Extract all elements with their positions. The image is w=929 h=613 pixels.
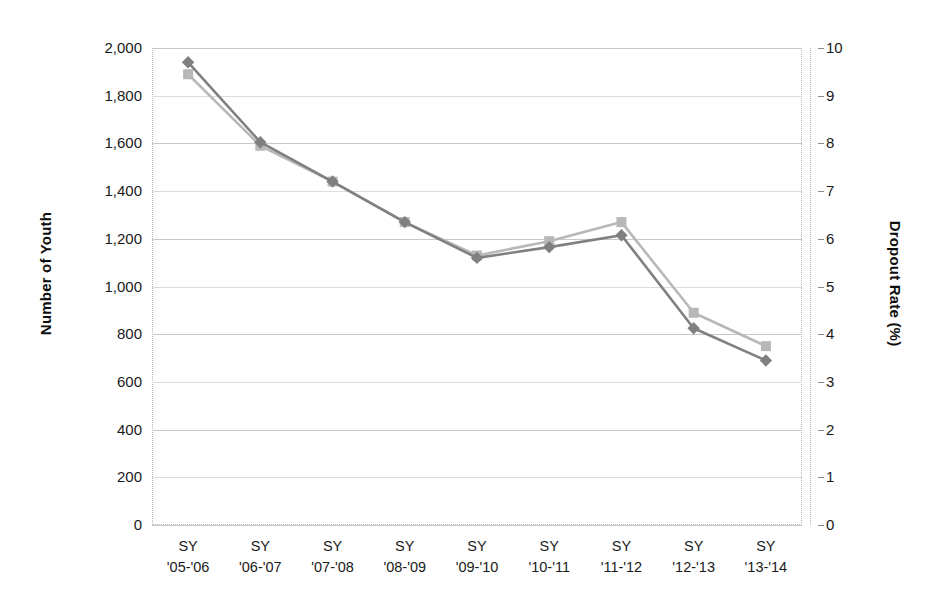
y-axis-right-tick-label: 2: [826, 422, 866, 437]
series-line: [188, 62, 766, 360]
y-axis-left-tick-label: 1,000: [72, 279, 142, 294]
y-axis-right-line: [810, 48, 812, 525]
y-axis-left-tick-label: 1,200: [72, 231, 142, 246]
plot-area: [152, 48, 802, 525]
x-axis-tick-label-line: SY: [585, 536, 657, 557]
y-axis-right-tick-mark: [818, 239, 824, 240]
y-axis-left-tick-label: 0: [72, 517, 142, 532]
x-axis-labels: SY'05-'06SY'06-'07SY'07-'08SY'08-'09SY'0…: [152, 536, 802, 596]
x-axis-tick-label-line: '06-'07: [224, 557, 296, 578]
y-axis-right-tick-label: 3: [826, 374, 866, 389]
x-axis-tick-label: SY'10-'11: [513, 536, 585, 596]
y-axis-left-tick-label: 1,600: [72, 135, 142, 150]
series-marker-square: [761, 341, 771, 351]
x-axis-tick-label-line: SY: [224, 536, 296, 557]
y-axis-left-tick-label: 600: [72, 374, 142, 389]
y-axis-right-tick-mark: [818, 525, 824, 526]
x-axis-tick-label-line: '13-'14: [730, 557, 802, 578]
y-axis-right-tick-label: 8: [826, 135, 866, 150]
x-axis-tick-label: SY'07-'08: [296, 536, 368, 596]
y-axis-right-tick-label: 9: [826, 88, 866, 103]
y-axis-left-tick-label: 1,800: [72, 88, 142, 103]
x-axis-tick-label-line: SY: [296, 536, 368, 557]
y-axis-right-tick-mark: [818, 191, 824, 192]
x-axis-tick-label: SY'06-'07: [224, 536, 296, 596]
dropout-chart: Number of Youth Dropout Rate (%) 0200400…: [0, 0, 929, 613]
x-axis-tick-label: SY'11-'12: [585, 536, 657, 596]
x-axis-tick-label: SY'12-'13: [658, 536, 730, 596]
y-axis-left-title: Number of Youth: [37, 174, 54, 374]
x-axis-tick-label-line: SY: [441, 536, 513, 557]
y-axis-right-tick-label: 0: [826, 517, 866, 532]
x-axis-tick-label: SY'13-'14: [730, 536, 802, 596]
y-axis-right-tick-mark: [818, 334, 824, 335]
x-axis-tick-label-line: SY: [152, 536, 224, 557]
y-axis-right-tick-label: 5: [826, 279, 866, 294]
x-axis-tick-label-line: '11-'12: [585, 557, 657, 578]
series-marker-diamond: [760, 354, 772, 366]
y-axis-right-tick-label: 7: [826, 183, 866, 198]
series-line: [188, 74, 766, 346]
y-axis-right-tick-mark: [818, 477, 824, 478]
x-axis-tick-label-line: '08-'09: [369, 557, 441, 578]
x-axis-tick-label: SY'08-'09: [369, 536, 441, 596]
x-axis-tick-label-line: SY: [369, 536, 441, 557]
y-axis-right-tick-mark: [818, 48, 824, 49]
y-axis-left-tick-label: 2,000: [72, 40, 142, 55]
y-axis-right-tick-mark: [818, 143, 824, 144]
y-axis-right-tick-mark: [818, 382, 824, 383]
y-axis-right-tick-mark: [818, 96, 824, 97]
y-axis-right-title: Dropout Rate (%): [887, 184, 904, 384]
y-axis-left-tick-label: 1,400: [72, 183, 142, 198]
x-axis-tick-label-line: '05-'06: [152, 557, 224, 578]
y-axis-right-ticks: 012345678910: [826, 0, 866, 613]
series-marker-square: [183, 69, 193, 79]
series-marker-square: [616, 217, 626, 227]
y-axis-left-tick-label: 800: [72, 326, 142, 341]
y-axis-left-tick-label: 200: [72, 469, 142, 484]
x-axis-tick-label-line: '10-'11: [513, 557, 585, 578]
y-axis-right-tick-label: 1: [826, 469, 866, 484]
y-axis-right-tick-mark: [818, 430, 824, 431]
y-axis-left-ticks: 02004006008001,0001,2001,4001,6001,8002,…: [72, 0, 142, 613]
y-axis-left-tick-label: 400: [72, 422, 142, 437]
y-axis-right-tick-mark: [818, 287, 824, 288]
series-marker-square: [689, 308, 699, 318]
x-axis-tick-label: SY'05-'06: [152, 536, 224, 596]
x-axis-tick-label: SY'09-'10: [441, 536, 513, 596]
x-axis-tick-label-line: SY: [513, 536, 585, 557]
x-axis-tick-label-line: '07-'08: [296, 557, 368, 578]
gridline: [152, 525, 802, 526]
series-layer: [152, 48, 802, 525]
y-axis-right-tick-label: 4: [826, 326, 866, 341]
x-axis-tick-label-line: '09-'10: [441, 557, 513, 578]
y-axis-right-tick-label: 10: [826, 40, 866, 55]
y-axis-right-tick-label: 6: [826, 231, 866, 246]
x-axis-tick-label-line: SY: [730, 536, 802, 557]
x-axis-tick-label-line: '12-'13: [658, 557, 730, 578]
x-axis-tick-label-line: SY: [658, 536, 730, 557]
